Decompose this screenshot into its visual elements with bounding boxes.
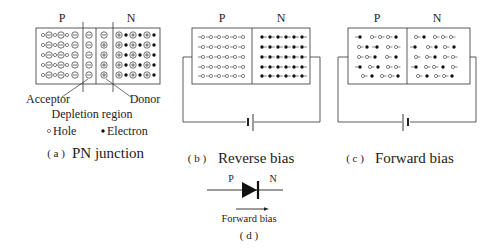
panel-c-caption-prefix: ( c ) <box>346 152 364 165</box>
panel-c-n-label: N <box>433 11 442 25</box>
panel-c-forward-bias: P N ( c ) Forward bias <box>338 11 476 166</box>
legend-hole-label: Hole <box>53 124 76 138</box>
acceptor-label: Acceptor <box>26 92 70 106</box>
panel-a-caption-prefix: ( a ) <box>47 147 65 160</box>
donor-pointer <box>106 79 131 97</box>
panel-d-p-label: P <box>228 173 234 184</box>
arrow-head-icon <box>264 207 269 211</box>
legend-electron-label: Electron <box>107 124 148 138</box>
panel-d-caption: ( d ) <box>240 229 259 242</box>
panel-a-caption: PN junction <box>72 145 145 161</box>
panel-b-n-label: N <box>277 11 286 25</box>
p-region-carriers <box>41 32 92 78</box>
depletion-region-label: Depletion region <box>52 107 133 121</box>
panel-b-caption: Reverse bias <box>218 150 294 166</box>
pn-junction-diagram: P N Acceptor Donor Depletion region <box>0 0 487 249</box>
panel-a-p-label: P <box>59 11 66 25</box>
panel-a-pn-junction: P N Acceptor Donor Depletion region <box>26 11 160 161</box>
panel-d-n-label: N <box>269 173 276 184</box>
panel-d-diode-symbol: P N Forward bias ( d ) <box>207 173 283 242</box>
panel-b-caption-prefix: ( b ) <box>188 152 207 165</box>
donor-label: Donor <box>130 92 161 106</box>
n-region-carriers <box>101 32 156 78</box>
forward-bias-label: Forward bias <box>221 213 276 224</box>
hole-legend-icon <box>47 129 50 132</box>
panel-c-n-carriers <box>410 35 458 77</box>
electron-legend-icon <box>101 129 104 132</box>
panel-c-p-label: P <box>374 11 381 25</box>
panel-c-p-carriers <box>355 35 401 77</box>
panel-a-n-label: N <box>127 11 136 25</box>
legend: Hole Electron <box>47 124 147 138</box>
panel-b-p-holes <box>198 35 245 77</box>
panel-b-reverse-bias: P N ( b ) Reverse bias <box>183 11 320 166</box>
panel-b-n-electrons <box>260 35 307 77</box>
panel-b-p-label: P <box>219 11 226 25</box>
diode-triangle-icon <box>242 182 257 198</box>
panel-c-caption: Forward bias <box>375 150 454 166</box>
